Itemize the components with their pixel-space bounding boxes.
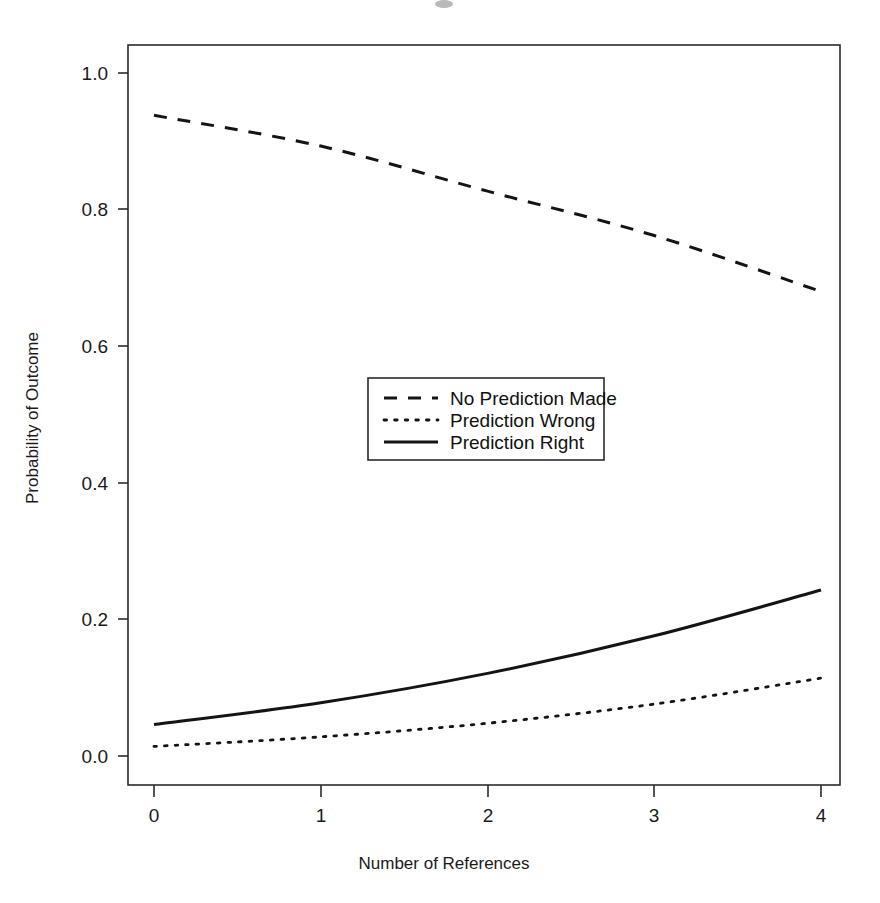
x-axis-ticks — [154, 785, 821, 797]
x-tick-label: 4 — [816, 805, 827, 826]
cropped-title-remnant — [435, 0, 453, 8]
y-axis-ticks — [118, 73, 128, 756]
x-tick-label: 3 — [649, 805, 660, 826]
x-axis-tick-labels: 0 1 2 3 4 — [149, 805, 827, 826]
y-tick-label: 0.4 — [82, 473, 109, 494]
legend-label: Prediction Wrong — [450, 410, 595, 431]
y-tick-label: 0.0 — [82, 746, 108, 767]
legend: No Prediction Made Prediction Wrong Pred… — [368, 378, 617, 460]
x-axis-title: Number of References — [358, 854, 529, 873]
y-tick-label: 1.0 — [82, 63, 108, 84]
line-chart: 1.0 0.8 0.6 0.4 0.2 0.0 0 1 2 3 4 Number… — [0, 0, 880, 903]
series-prediction-right — [154, 590, 821, 725]
y-axis-title: Probability of Outcome — [23, 332, 42, 504]
legend-label: Prediction Right — [450, 432, 585, 453]
chart-page: 1.0 0.8 0.6 0.4 0.2 0.0 0 1 2 3 4 Number… — [0, 0, 880, 903]
y-tick-label: 0.6 — [82, 336, 108, 357]
legend-label: No Prediction Made — [450, 388, 617, 409]
y-tick-label: 0.2 — [82, 609, 108, 630]
series-no-prediction-made — [154, 115, 821, 291]
x-tick-label: 2 — [483, 805, 494, 826]
x-tick-label: 1 — [316, 805, 327, 826]
x-tick-label: 0 — [149, 805, 160, 826]
y-axis-tick-labels: 1.0 0.8 0.6 0.4 0.2 0.0 — [82, 63, 109, 767]
y-tick-label: 0.8 — [82, 199, 108, 220]
